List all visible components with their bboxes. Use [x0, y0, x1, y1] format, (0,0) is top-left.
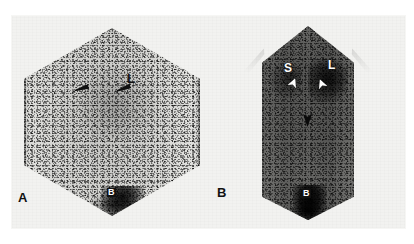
- panel-tag-b: B: [217, 186, 226, 199]
- cropped-caption-text: [14, 0, 314, 9]
- liver-label-b: L: [328, 59, 335, 71]
- bladder-label-b: B: [302, 189, 311, 198]
- panel-b[interactable]: S L B B: [212, 16, 405, 228]
- bladder-label-a: B: [107, 188, 116, 197]
- panel-a[interactable]: L B A: [12, 16, 212, 228]
- scan-plate: L B A S L: [12, 16, 405, 228]
- figure-root: L B A S L: [0, 0, 414, 244]
- scan-image-a[interactable]: L B: [24, 28, 200, 216]
- scan-image-b[interactable]: S L B: [262, 26, 354, 220]
- panel-tag-a: A: [18, 191, 27, 204]
- spleen-label-b: S: [284, 62, 292, 74]
- liver-label-a: L: [127, 72, 135, 85]
